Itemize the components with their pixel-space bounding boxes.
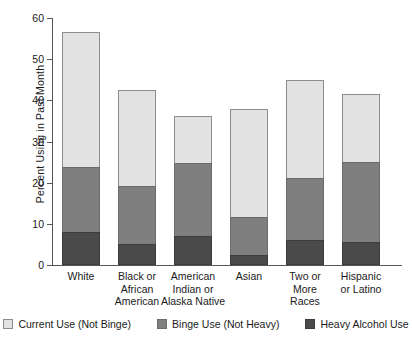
y-tick-label: 40: [32, 95, 44, 106]
category-label-line: Indian or: [150, 283, 236, 296]
y-tick-mark: [47, 224, 52, 225]
bar-segment-current: [174, 116, 212, 164]
category-label-line: Alaska Native: [150, 295, 236, 308]
bar-segment-heavy: [118, 244, 156, 265]
legend-swatch-binge-icon: [157, 319, 167, 329]
bar-segment-binge: [342, 162, 380, 243]
legend-swatch-heavy-icon: [305, 319, 315, 329]
plot-area: 0102030405060 WhiteBlack orAfricanAmeric…: [52, 18, 402, 266]
y-tick-label: 20: [32, 177, 44, 188]
bar-segment-current: [342, 94, 380, 163]
legend-item-binge[interactable]: Binge Use (Not Heavy): [157, 318, 279, 330]
bar-segment-current: [286, 80, 324, 179]
y-tick-mark: [47, 59, 52, 60]
bar-segment-heavy: [62, 232, 100, 265]
bar-segment-heavy: [174, 236, 212, 265]
y-tick-label: 60: [32, 13, 44, 24]
bar-segment-binge: [118, 186, 156, 246]
alcohol-use-stacked-bar-chart: Percent Using in Past Month 010203040506…: [0, 0, 412, 345]
bar-segment-binge: [62, 167, 100, 233]
legend-label: Binge Use (Not Heavy): [172, 318, 279, 330]
bar-segment-heavy: [342, 242, 380, 265]
bar-hispanic-or-latino: [342, 94, 380, 265]
legend-item-heavy[interactable]: Heavy Alcohol Use: [305, 318, 408, 330]
category-label-line: Hispanic: [318, 270, 404, 283]
y-tick-label: 10: [32, 219, 44, 230]
bar-segment-binge: [230, 217, 268, 256]
x-axis-line: [52, 265, 402, 266]
y-tick-mark: [47, 142, 52, 143]
legend-label: Current Use (Not Binge): [18, 318, 131, 330]
bar-segment-binge: [174, 163, 212, 237]
bar-segment-heavy: [230, 255, 268, 265]
y-tick-mark: [47, 183, 52, 184]
bar-white: [62, 32, 100, 265]
bar-segment-heavy: [286, 240, 324, 265]
bar-black-or-african-american: [118, 90, 156, 265]
bar-segment-current: [230, 109, 268, 218]
y-tick-mark: [47, 100, 52, 101]
category-label-line: or Latino: [318, 283, 404, 296]
bar-segment-current: [62, 32, 100, 168]
bar-asian: [230, 109, 268, 265]
y-tick-mark: [47, 18, 52, 19]
chart-legend: Current Use (Not Binge)Binge Use (Not He…: [0, 318, 412, 330]
bar-segment-binge: [286, 178, 324, 242]
bar-two-or-more-races: [286, 80, 324, 265]
legend-item-current[interactable]: Current Use (Not Binge): [3, 318, 131, 330]
y-tick-label: 30: [32, 136, 44, 147]
y-axis-line: [52, 18, 53, 266]
bar-segment-current: [118, 90, 156, 187]
legend-swatch-current-icon: [3, 319, 13, 329]
category-label-6: Hispanicor Latino: [318, 270, 404, 295]
y-tick-mark: [47, 265, 52, 266]
category-label-line: Races: [262, 295, 348, 308]
bar-american-indian-or-alaska-native: [174, 116, 212, 265]
y-tick-label: 0: [38, 260, 44, 271]
y-tick-label: 50: [32, 54, 44, 65]
legend-label: Heavy Alcohol Use: [320, 318, 408, 330]
